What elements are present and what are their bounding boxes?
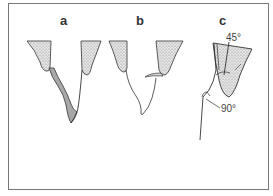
flap-b	[145, 73, 163, 77]
angle-label-45: 45°	[226, 32, 241, 43]
panel-c-drawing	[200, 42, 252, 140]
panel-label-a: a	[60, 13, 67, 28]
stippled-wall-right-b	[156, 41, 183, 75]
leader-line-90	[206, 99, 220, 108]
panel-b-drawing	[109, 41, 183, 115]
outline-b-right	[143, 78, 156, 114]
outline-b-left	[126, 70, 143, 115]
angle-label-90: 90°	[221, 103, 236, 114]
diagram-canvas	[0, 0, 273, 196]
stippled-wall-left-b	[109, 41, 127, 72]
shaded-band-a	[49, 68, 77, 123]
panel-label-c: c	[219, 13, 226, 28]
line-c-outer	[200, 44, 216, 140]
stippled-wall-left-a	[27, 41, 51, 71]
panel-a-drawing	[27, 41, 101, 123]
stippled-wall-right-a	[81, 41, 101, 75]
panel-label-b: b	[136, 13, 144, 28]
